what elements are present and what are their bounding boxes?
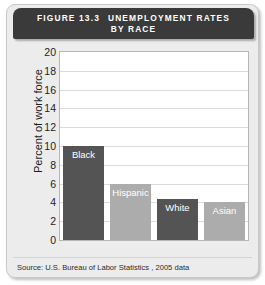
figure-number-label: FIGURE 13.3 bbox=[37, 13, 100, 23]
bar-hispanic: Hispanic bbox=[110, 184, 151, 240]
y-axis-tick-14: 14 bbox=[29, 102, 56, 114]
bar-white: White bbox=[157, 199, 198, 240]
figure-title-line-1: FIGURE 13.3UNEMPLOYMENT RATES bbox=[13, 8, 254, 24]
y-axis-tick-12: 12 bbox=[29, 121, 56, 133]
y-axis-tick-8: 8 bbox=[29, 159, 56, 171]
figure-title-text-1: UNEMPLOYMENT RATES bbox=[108, 13, 230, 23]
bar-label-black: Black bbox=[63, 149, 104, 160]
y-axis-tick-6: 6 bbox=[29, 178, 56, 190]
bar-label-hispanic: Hispanic bbox=[110, 187, 151, 198]
y-axis-tick-0: 0 bbox=[29, 234, 56, 246]
y-axis-tick-2: 2 bbox=[29, 215, 56, 227]
y-axis-tick-labels: 20181614121086420 bbox=[29, 43, 56, 248]
bar-asian: Asian bbox=[204, 202, 245, 240]
bars-layer: BlackHispanicWhiteAsian bbox=[60, 52, 248, 240]
bar-black: Black bbox=[63, 146, 104, 240]
plot-frame: BlackHispanicWhiteAsian bbox=[59, 51, 249, 241]
chart-area: Percent of work force 20181614121086420 … bbox=[11, 43, 256, 257]
bar-label-white: White bbox=[157, 202, 198, 213]
figure-title-bar: FIGURE 13.3UNEMPLOYMENT RATES BY RACE bbox=[13, 8, 254, 39]
figure-card: FIGURE 13.3UNEMPLOYMENT RATES BY RACE Pe… bbox=[6, 4, 259, 278]
y-axis-tick-18: 18 bbox=[29, 65, 56, 77]
figure-title-line-2: BY RACE bbox=[13, 24, 254, 35]
y-axis-tick-16: 16 bbox=[29, 84, 56, 96]
y-axis-tick-20: 20 bbox=[29, 46, 56, 58]
y-axis-tick-4: 4 bbox=[29, 196, 56, 208]
source-divider bbox=[13, 257, 252, 258]
bar-label-asian: Asian bbox=[204, 205, 245, 216]
source-note: Source: U.S. Bureau of Labor Statistics … bbox=[17, 263, 189, 272]
y-axis-tick-10: 10 bbox=[29, 140, 56, 152]
